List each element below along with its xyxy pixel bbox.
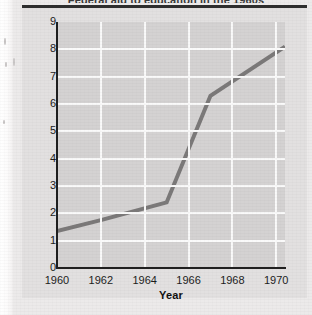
- scanned-figure-page: Federal aid to education in the 1960s Bi…: [0, 0, 312, 315]
- scan-speck: [13, 58, 15, 66]
- gridline-vertical: [275, 22, 277, 268]
- gridline-horizontal: [57, 48, 285, 50]
- y-axis-tick-labels: 0123456789: [38, 8, 56, 298]
- y-tick-label: 2: [38, 207, 56, 218]
- gridline-horizontal: [57, 103, 285, 105]
- y-tick-label: 5: [38, 125, 56, 136]
- x-tick-label: 1968: [212, 274, 252, 286]
- y-tick-label: 0: [38, 262, 56, 273]
- gridline-horizontal: [57, 185, 285, 187]
- scan-speck: [4, 38, 6, 45]
- gridline-horizontal: [57, 158, 285, 160]
- data-series-line: [57, 47, 285, 232]
- y-tick-label: 7: [38, 71, 56, 82]
- cropped-figure-title: Federal aid to education in the 1960s: [20, 0, 312, 3]
- x-tick-label: 1960: [37, 274, 77, 286]
- title-horizontal-rule: [22, 5, 307, 8]
- y-axis-spine: [56, 22, 58, 268]
- x-tick-label: 1966: [169, 274, 209, 286]
- x-axis-tick-labels: 196019621964196619681970: [57, 274, 285, 290]
- gridline-vertical: [100, 22, 102, 268]
- scan-speck: [3, 120, 5, 124]
- gridline-vertical: [188, 22, 190, 268]
- plot-area: [57, 22, 285, 268]
- gridline-vertical: [231, 22, 233, 268]
- gridline-horizontal: [57, 212, 285, 214]
- figure-body: Billions of dollars 0123456789 196019621…: [22, 8, 307, 298]
- y-tick-label: 3: [38, 180, 56, 191]
- y-tick-label: 8: [38, 43, 56, 54]
- x-tick-label: 1962: [81, 274, 121, 286]
- gridline-horizontal: [57, 130, 285, 132]
- x-axis-title: Year: [57, 289, 285, 301]
- y-tick-label: 6: [38, 98, 56, 109]
- scan-left-edge: [0, 0, 13, 315]
- x-tick-label: 1970: [256, 274, 296, 286]
- y-tick-label: 1: [38, 235, 56, 246]
- gridline-vertical: [144, 22, 146, 268]
- gridline-horizontal: [57, 240, 285, 242]
- scan-speck: [5, 62, 7, 67]
- gridline-horizontal: [57, 76, 285, 78]
- y-tick-label: 4: [38, 153, 56, 164]
- data-line-svg: [57, 22, 285, 268]
- cropped-figure-title-text: Federal aid to education in the 1960s: [20, 0, 312, 3]
- x-tick-label: 1964: [125, 274, 165, 286]
- x-axis-spine: [56, 267, 286, 269]
- y-tick-label: 9: [38, 16, 56, 27]
